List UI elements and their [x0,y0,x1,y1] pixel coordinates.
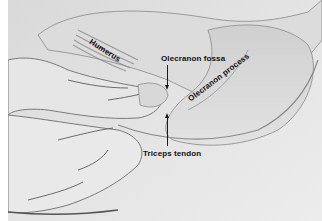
elbow-photo [8,0,322,221]
triceps-tendon-label: Triceps tendon [143,150,201,158]
triceps-tendon-arrow-icon [167,116,168,146]
olecranon-fossa-arrow-icon [167,65,168,87]
olecranon-fossa-label: Olecranon fossa [161,55,225,63]
anatomy-figure: Humerus Olecranon fossa Olecranon proces… [0,0,322,221]
